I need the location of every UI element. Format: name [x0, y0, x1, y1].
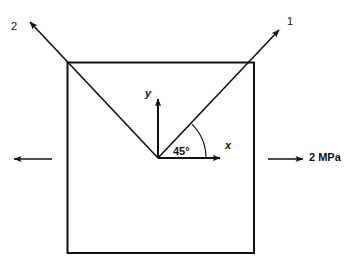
axis-y-label: y [145, 88, 151, 99]
angle-label: 45° [173, 146, 190, 157]
stress-element-figure: 2 1 y x 45° 2 MPa [0, 0, 352, 271]
principal-axis-1-line [158, 30, 279, 158]
right-load-label: 2 MPa [309, 152, 341, 163]
diagram-canvas [0, 0, 352, 271]
principal-axis-2-label: 2 [11, 21, 17, 32]
principal-axis-2-line [30, 22, 158, 158]
angle-arc [192, 124, 206, 158]
axis-x-label: x [225, 140, 231, 151]
principal-axis-1-label: 1 [287, 16, 293, 27]
